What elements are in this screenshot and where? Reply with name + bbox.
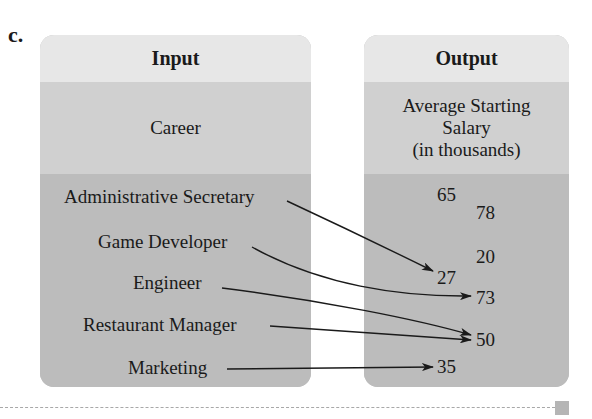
input-header: Input bbox=[40, 35, 311, 82]
part-label: c. bbox=[8, 22, 23, 48]
input-item-administrative-secretary: Administrative Secretary bbox=[64, 186, 254, 208]
input-item-game-developer: Game Developer bbox=[98, 231, 227, 253]
output-value-65: 65 bbox=[437, 184, 456, 206]
output-value-35: 35 bbox=[437, 356, 456, 378]
output-header: Output bbox=[364, 35, 569, 82]
output-category-band: Average Starting Salary (in thousands) bbox=[364, 82, 569, 174]
output-body bbox=[364, 174, 569, 387]
output-value-50: 50 bbox=[476, 329, 495, 351]
output-panel: Output Average Starting Salary (in thous… bbox=[364, 35, 569, 387]
output-category-line-2: Salary bbox=[442, 117, 491, 139]
input-item-marketing: Marketing bbox=[128, 357, 207, 379]
output-category-line-1: Average Starting bbox=[403, 95, 531, 117]
output-value-27: 27 bbox=[437, 267, 456, 289]
output-value-78: 78 bbox=[476, 202, 495, 224]
input-item-restaurant-manager: Restaurant Manager bbox=[83, 314, 237, 336]
output-value-20: 20 bbox=[476, 246, 495, 268]
end-marker-square bbox=[555, 401, 569, 415]
output-value-73: 73 bbox=[476, 287, 495, 309]
section-divider bbox=[0, 407, 555, 408]
output-category-line-3: (in thousands) bbox=[412, 139, 520, 161]
input-category-band: Career bbox=[40, 82, 311, 174]
input-item-engineer: Engineer bbox=[133, 272, 202, 294]
input-category: Career bbox=[150, 117, 201, 139]
